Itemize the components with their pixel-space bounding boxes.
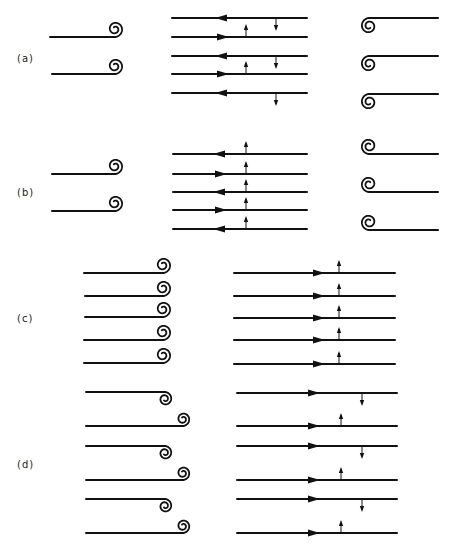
arrow-right-icon (308, 530, 320, 537)
arrow-up-icon (337, 327, 341, 333)
arrow-right-icon (313, 270, 325, 277)
arrow-up-icon (339, 520, 343, 526)
arrow-up-icon (244, 216, 248, 222)
arrow-up-icon (244, 179, 248, 185)
arrow-right-icon (217, 34, 229, 41)
panel-label-d: (d) (17, 459, 34, 470)
spiral-vortex-icon (362, 94, 377, 108)
arrow-right-icon (308, 390, 320, 397)
spiral-vortex-icon (158, 282, 170, 296)
spiral-vortex-icon (362, 56, 377, 70)
arrow-right-icon (313, 315, 325, 322)
arrow-up-icon (244, 61, 248, 67)
arrow-left-icon (215, 90, 227, 97)
arrow-up-icon (244, 197, 248, 203)
arrow-down-icon (274, 25, 278, 31)
spiral-vortex-icon (178, 414, 189, 426)
spiral-vortex-icon (110, 197, 122, 211)
spiral-vortex-icon (178, 521, 189, 533)
vortex-sheet-diagram: (a) (b) (c) (d) (0, 0, 450, 546)
arrow-right-icon (215, 171, 227, 178)
spiral-vortex-icon (110, 60, 122, 74)
spiral-vortex-icon (160, 392, 171, 404)
arrow-right-icon (308, 443, 320, 450)
spiral-vortex-icon (160, 499, 171, 511)
arrow-right-icon (313, 361, 325, 368)
arrow-left-icon (215, 15, 227, 22)
diagram-drawing (50, 15, 438, 537)
spiral-vortex-icon (158, 259, 170, 273)
arrow-up-icon (337, 305, 341, 311)
arrow-up-icon (337, 283, 341, 289)
arrow-right-icon (217, 71, 229, 78)
arrow-right-icon (215, 207, 227, 214)
arrow-down-icon (360, 453, 364, 459)
arrow-right-icon (308, 477, 320, 484)
arrow-right-icon (308, 496, 320, 503)
spiral-vortex-icon (158, 349, 170, 363)
arrow-left-icon (213, 189, 225, 196)
arrow-left-icon (213, 151, 225, 158)
arrow-down-icon (274, 63, 278, 69)
arrow-up-icon (337, 351, 341, 357)
arrow-left-icon (215, 53, 227, 60)
spiral-vortex-icon (362, 178, 377, 192)
spiral-vortex-icon (362, 216, 377, 230)
spiral-vortex-icon (160, 446, 171, 458)
arrow-up-icon (244, 24, 248, 30)
spiral-vortex-icon (362, 140, 377, 154)
arrow-down-icon (360, 400, 364, 406)
arrow-right-icon (313, 337, 325, 344)
panel-label-a: (a) (17, 53, 34, 64)
spiral-vortex-icon (178, 468, 189, 480)
arrow-right-icon (308, 423, 320, 430)
arrow-up-icon (244, 141, 248, 147)
panel-label-c: (c) (17, 313, 33, 324)
spiral-vortex-icon (110, 23, 122, 37)
arrow-right-icon (313, 293, 325, 300)
arrow-up-icon (339, 467, 343, 473)
arrow-down-icon (360, 506, 364, 512)
arrow-down-icon (274, 100, 278, 106)
arrow-up-icon (339, 413, 343, 419)
spiral-vortex-icon (362, 18, 377, 32)
arrow-left-icon (213, 226, 225, 233)
arrow-up-icon (337, 260, 341, 266)
spiral-vortex-icon (158, 303, 170, 317)
panel-label-b: (b) (17, 187, 34, 198)
arrow-up-icon (244, 161, 248, 167)
spiral-vortex-icon (158, 326, 170, 340)
spiral-vortex-icon (110, 160, 122, 174)
panel-labels: (a) (b) (c) (d) (17, 53, 34, 470)
